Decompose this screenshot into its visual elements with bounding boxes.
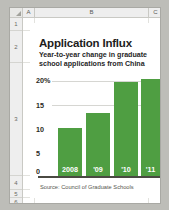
row-header-column: 1 2 3 4 5 6 7 (10, 18, 23, 204)
y-axis-tick-5: 5 (36, 149, 40, 158)
x-axis-label-2011: '11 (141, 165, 160, 174)
row-header-3[interactable]: 3 (10, 63, 22, 176)
y-axis-tick-20: 20% (36, 76, 50, 85)
embedded-chart[interactable]: Application Influx Year-to-year change i… (30, 23, 161, 198)
bar-2011[interactable] (141, 79, 160, 176)
column-header-b[interactable]: B (35, 8, 149, 17)
row-header-4[interactable]: 4 (10, 176, 22, 190)
worksheet-frame: A B C 1 2 3 4 5 6 7 Application Inf (9, 7, 161, 204)
y-axis-tick-15: 15 (36, 101, 44, 110)
select-all-triangle-icon (16, 11, 21, 16)
chart-source-note: Source: Council of Graduate Schools (40, 184, 134, 190)
chart-title: Application Influx (39, 37, 132, 49)
x-axis-label-2010: '10 (114, 165, 138, 174)
select-all-corner[interactable] (10, 8, 23, 17)
y-axis-tick-0: 0 (36, 167, 40, 176)
y-axis-tick-10: 10 (36, 125, 44, 134)
column-header-c[interactable]: C (149, 8, 161, 17)
row-header-5[interactable]: 5 (10, 190, 22, 198)
chart-subtitle: Year-to-year change in graduate school a… (39, 51, 157, 69)
row-header-6[interactable]: 6 (10, 198, 22, 204)
x-axis-label-2009: '09 (86, 165, 110, 174)
chart-baseline (38, 176, 160, 178)
spreadsheet-application: A B C 1 2 3 4 5 6 7 Application Inf (0, 0, 169, 210)
column-header-row: A B C (10, 8, 161, 18)
row-header-2[interactable]: 2 (10, 31, 22, 63)
x-axis-label-2008: 2008 (58, 165, 82, 174)
bar-2010[interactable] (114, 82, 138, 176)
column-header-a[interactable]: A (23, 8, 35, 17)
row-header-1[interactable]: 1 (10, 18, 22, 31)
chart-plot-area: 20% 15 10 5 0 2008 '09 '10 '11 (30, 75, 161, 178)
